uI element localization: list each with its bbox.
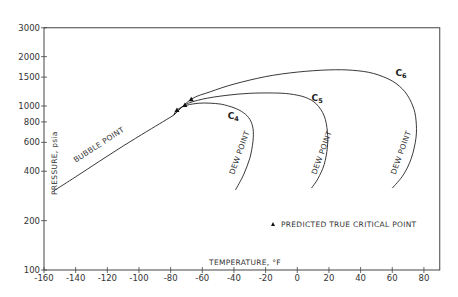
x-tick-label: 40: [355, 273, 366, 283]
critical-point-triangle-icon: [189, 97, 194, 102]
y-tick-label: 600: [24, 137, 40, 147]
y-tick-label: 400: [24, 166, 40, 176]
dew-point-label: DEW POINT: [389, 129, 413, 175]
curve-label-c5: C5: [312, 93, 324, 105]
y-tick-label: 2000: [18, 52, 40, 62]
bubble-point-curve: [54, 115, 174, 191]
x-tick-label: -100: [129, 273, 148, 283]
y-tick-label: 200: [24, 216, 40, 226]
legend-label: PREDICTED TRUE CRITICAL POINT: [281, 220, 417, 229]
x-tick-label: -60: [195, 273, 209, 283]
x-tick-label: -80: [164, 273, 178, 283]
curve-labels: C4C5C6BUBBLE POINTDEW POINTDEW POINTDEW …: [72, 68, 413, 175]
x-tick-label: -120: [98, 273, 117, 283]
dew-point-label: DEW POINT: [310, 129, 334, 175]
x-tick-label: 0: [295, 273, 300, 283]
bubble-point-label: BUBBLE POINT: [72, 125, 126, 165]
curve-label-c6: C6: [395, 68, 407, 80]
y-axis-title: PRESSURE, psia: [50, 131, 59, 195]
y-tick-label: 3000: [18, 23, 40, 33]
y-tick-label: 800: [24, 117, 40, 127]
dew-point-label: DEW POINT: [227, 129, 251, 175]
y-tick-label: 1500: [18, 72, 40, 82]
phase-envelope-chart: -160-140-120-100-80-60-40-20020406080100…: [0, 0, 458, 297]
x-tick-label: 80: [419, 273, 430, 283]
curve-label-c4: C4: [228, 111, 240, 123]
x-tick-label: -140: [66, 273, 85, 283]
x-tick-label: 20: [324, 273, 335, 283]
x-tick-label: -20: [259, 273, 273, 283]
envelope-curve-c6: [174, 70, 417, 188]
legend: PREDICTED TRUE CRITICAL POINT: [271, 220, 417, 229]
y-tick-label: 100: [24, 265, 40, 275]
x-axis-title: TEMPERATURE, °F: [208, 258, 281, 267]
triangle-marker-icon: [271, 222, 275, 226]
x-tick-label: 60: [387, 273, 398, 283]
x-tick-label: -40: [227, 273, 241, 283]
y-tick-label: 1000: [18, 101, 40, 111]
envelope-curve-c5: [174, 93, 328, 188]
